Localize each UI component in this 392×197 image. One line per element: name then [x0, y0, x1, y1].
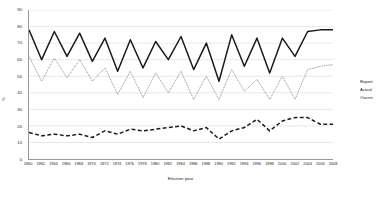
y-tick-label: 90 [17, 8, 22, 12]
x-tick-label: 1996 [252, 162, 261, 166]
series-line-reported [29, 30, 333, 81]
x-tick-label: 1992 [227, 162, 236, 166]
legend-swatch-solid [336, 79, 358, 85]
legend-item-label: Actual [360, 88, 372, 92]
y-tick-label: 60 [17, 58, 22, 62]
series-line-overreport [29, 118, 333, 140]
legend-item[interactable]: Report [336, 78, 392, 86]
x-axis-title: Election year [28, 176, 333, 181]
x-tick-label: 2004 [303, 162, 312, 166]
x-tick-label: 1980 [151, 162, 160, 166]
x-tick-label: 2000 [278, 162, 287, 166]
legend-item-label: Report [360, 80, 373, 84]
x-tick-label: 1990 [214, 162, 223, 166]
plot-area [28, 10, 333, 160]
x-tick-label: 1982 [163, 162, 172, 166]
x-tick-label: 1962 [36, 162, 45, 166]
x-tick-label: 1988 [202, 162, 211, 166]
x-tick-label: 1966 [62, 162, 71, 166]
x-tick-label: 1960 [24, 162, 33, 166]
y-tick-label: 30 [17, 108, 22, 112]
y-tick-label: 20 [17, 125, 22, 129]
legend-item-label: Overre [360, 96, 373, 100]
x-tick-label: 1972 [100, 162, 109, 166]
y-tick-label: 80 [17, 25, 22, 29]
series-lines [29, 10, 333, 159]
x-tick-label: 2008 [329, 162, 338, 166]
x-tick-label: 1986 [189, 162, 198, 166]
x-tick-label: 1968 [75, 162, 84, 166]
x-tick-label: 2006 [316, 162, 325, 166]
x-tick-label: 1976 [125, 162, 134, 166]
x-tick-label: 1964 [49, 162, 58, 166]
y-tick-label: 40 [17, 91, 22, 95]
x-tick-label: 1974 [113, 162, 122, 166]
y-tick-label: 70 [17, 41, 22, 45]
chart-container: % 9080706050403020100 196019621964196619… [0, 0, 392, 197]
x-tick-label: 1970 [87, 162, 96, 166]
chart-legend: ReportActualOverre [336, 78, 392, 102]
y-tick-label: 0 [20, 158, 22, 162]
x-tick-label: 1984 [176, 162, 185, 166]
series-line-actual [29, 56, 333, 99]
legend-swatch-dotted [336, 87, 358, 93]
y-axis-tick-labels: 9080706050403020100 [0, 10, 26, 160]
x-tick-label: 2002 [291, 162, 300, 166]
y-tick-label: 10 [17, 141, 22, 145]
legend-item[interactable]: Overre [336, 94, 392, 102]
legend-swatch-dashed [336, 95, 358, 101]
x-tick-label: 1994 [240, 162, 249, 166]
x-tick-label: 1978 [138, 162, 147, 166]
x-tick-label: 1998 [265, 162, 274, 166]
x-axis-tick-labels: 1960196219641966196819701972197419761978… [28, 162, 333, 170]
legend-item[interactable]: Actual [336, 86, 392, 94]
y-tick-label: 50 [17, 75, 22, 79]
